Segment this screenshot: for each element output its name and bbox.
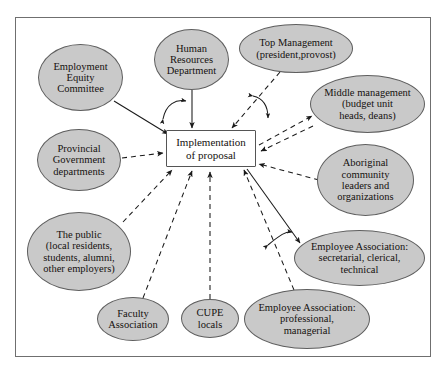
node-top-management: Top Management(president,provost)	[239, 24, 353, 73]
node-label-aboriginal-community: Aboriginalcommunityleaders andorganizati…	[333, 157, 397, 202]
connector-top-management	[232, 72, 280, 128]
curved-arrow-hr-left	[163, 101, 186, 119]
connector-employee-association-professional	[244, 170, 294, 290]
node-implementation-of-proposal: Implementationof proposal	[166, 130, 256, 167]
node-aboriginal-community: Aboriginalcommunityleaders andorganizati…	[317, 144, 414, 216]
curved-arrow-hr-right	[253, 96, 268, 118]
node-human-resources-department: HumanResourcesDepartment	[154, 29, 229, 90]
node-label-employment-equity-committee: EmploymentEquityCommittee	[49, 61, 111, 95]
node-employee-association-professional: Employee Association:professional,manage…	[244, 289, 370, 349]
node-employee-association-secretarial: Employee Association:secretarial, cleric…	[294, 230, 425, 286]
connector-employment-equity-committee	[114, 101, 168, 134]
node-label-cupe-locals: CUPElocals	[193, 307, 228, 330]
node-label-provincial-government-departments: ProvincialGovernmentdepartments	[49, 143, 110, 177]
node-cupe-locals: CUPElocals	[181, 299, 239, 338]
connector-provincial-government-departments	[122, 153, 163, 158]
connector-the-public	[123, 170, 172, 222]
node-label-middle-management: Middle management(budget unitheads, dean…	[320, 87, 415, 121]
node-label-implementation-of-proposal: Implementationof proposal	[176, 136, 246, 161]
node-label-employee-association-professional: Employee Association:professional,manage…	[254, 302, 359, 336]
node-faculty-association: FacultyAssociation	[97, 297, 169, 341]
node-middle-management: Middle management(budget unitheads, dean…	[310, 75, 425, 133]
diagram-page: EmploymentEquityCommitteeHumanResourcesD…	[0, 0, 447, 373]
node-label-human-resources-department: HumanResourcesDepartment	[163, 43, 221, 77]
node-the-public: The public(local residents,students, alu…	[27, 212, 131, 291]
curved-arrow-employee-association-secretarial	[268, 232, 292, 245]
node-label-employee-association-secretarial: Employee Association:secretarial, cleric…	[307, 241, 412, 275]
node-provincial-government-departments: ProvincialGovernmentdepartments	[37, 129, 121, 191]
connector-employee-association-secretarial	[247, 169, 300, 243]
node-label-the-public: The public(local residents,students, alu…	[39, 229, 118, 274]
node-label-top-management: Top Management(president,provost)	[252, 37, 340, 60]
connector-aboriginal-community	[259, 164, 319, 180]
node-label-faculty-association: FacultyAssociation	[104, 308, 162, 331]
connector-faculty-association	[143, 171, 192, 298]
node-employment-equity-committee: EmploymentEquityCommittee	[38, 44, 123, 111]
